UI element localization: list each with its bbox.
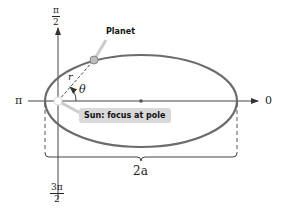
planet-tag: Planet [101, 24, 140, 39]
label-bottom-num: 3π [50, 183, 64, 194]
label-theta: θ [79, 84, 86, 95]
ellipse-center-dot [139, 99, 143, 103]
label-3pi-over-2: 3π 2 [50, 183, 64, 204]
label-pi: π [15, 95, 22, 106]
label-zero: 0 [265, 95, 272, 106]
label-radius: r [68, 72, 73, 82]
label-top-den: 2 [52, 17, 60, 27]
sun-dot [54, 97, 62, 105]
label-top-num: π [52, 6, 60, 17]
major-axis-bracket [45, 153, 237, 161]
angle-arc [70, 87, 76, 101]
label-pi-over-2: π 2 [52, 6, 60, 27]
sun-tag: Sun: focus at pole [79, 108, 171, 123]
label-bottom-den: 2 [50, 194, 64, 204]
planet-dot [90, 56, 98, 64]
label-2a: 2a [133, 165, 148, 177]
